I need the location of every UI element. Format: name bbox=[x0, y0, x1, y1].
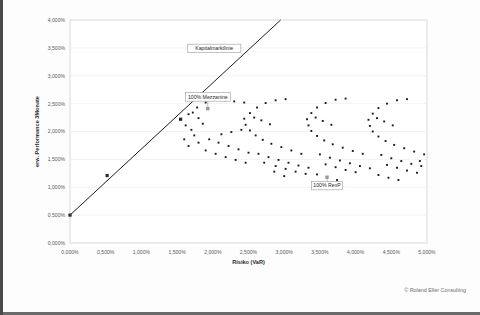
scatter-point bbox=[188, 113, 190, 115]
x-axis-tick-label: 2,000% bbox=[204, 249, 222, 255]
x-axis-tick-label: 5,000% bbox=[418, 249, 436, 255]
scatter-point bbox=[285, 168, 287, 170]
scatter-point bbox=[386, 103, 388, 105]
x-axis-tick-label: 3,500% bbox=[311, 249, 329, 255]
scatter-point bbox=[396, 167, 398, 169]
page-canvas: 0,000%0,500%1,000%1,500%2,000%2,500%3,00… bbox=[0, 0, 480, 315]
scatter-point bbox=[258, 153, 260, 155]
scatter-point bbox=[383, 121, 385, 123]
x-axis-tick-label: 2,500% bbox=[240, 249, 258, 255]
scatter-point bbox=[249, 129, 251, 131]
scatter-point bbox=[280, 146, 282, 148]
scatter-point bbox=[245, 162, 247, 164]
scatter-point bbox=[192, 112, 194, 114]
scatter-point bbox=[273, 171, 275, 173]
scatter-point bbox=[308, 167, 310, 169]
y-axis-tick-label: 1,000% bbox=[48, 184, 66, 190]
scatter-point bbox=[262, 139, 264, 141]
scatter-point bbox=[308, 124, 310, 126]
scatter-point bbox=[305, 173, 307, 175]
scatter-point bbox=[288, 162, 290, 164]
scatter-point bbox=[335, 166, 337, 168]
scatter-point bbox=[260, 119, 262, 121]
scatter-point bbox=[316, 135, 318, 137]
scatter-point bbox=[322, 120, 324, 122]
scatter-point bbox=[185, 124, 187, 126]
scatter-point bbox=[369, 167, 371, 169]
callout-anchor bbox=[325, 176, 328, 179]
scatter-point bbox=[372, 113, 374, 115]
scatter-point bbox=[230, 131, 232, 133]
scatter-point bbox=[377, 136, 379, 138]
scatter-point bbox=[179, 118, 181, 120]
scatter-point bbox=[233, 100, 235, 102]
scatter-point bbox=[355, 171, 357, 173]
scatter-point bbox=[265, 102, 267, 104]
scatter-point bbox=[202, 123, 204, 125]
scatter-point bbox=[243, 118, 245, 120]
scatter-point bbox=[243, 102, 245, 104]
scatter-point bbox=[285, 98, 287, 100]
scatter-point bbox=[205, 150, 207, 152]
scatter-point bbox=[316, 107, 318, 109]
scatter-point bbox=[377, 107, 379, 109]
scatter-point bbox=[300, 153, 302, 155]
scatter-point bbox=[268, 156, 270, 158]
callout-label: Kapitalmarktlinie bbox=[195, 45, 233, 51]
scatter-point bbox=[410, 163, 412, 165]
scatter-point bbox=[335, 99, 337, 101]
scatter-point bbox=[400, 160, 402, 162]
scatter-point bbox=[385, 140, 387, 142]
scatter-point bbox=[397, 179, 399, 181]
scatter-point bbox=[345, 98, 347, 100]
scatter-point bbox=[198, 117, 200, 119]
scatter-point bbox=[295, 171, 297, 173]
scatter-point bbox=[310, 130, 312, 132]
scatter-point bbox=[362, 153, 364, 155]
scatter-point bbox=[330, 124, 332, 126]
scatter-point bbox=[245, 124, 247, 126]
scatter-point bbox=[316, 173, 318, 175]
scatter-point bbox=[416, 172, 418, 174]
y-axis-tick-label: 0,000% bbox=[48, 240, 66, 246]
scatter-point bbox=[325, 163, 327, 165]
scatter-point bbox=[406, 98, 408, 100]
y-axis-tick-label: 2,000% bbox=[48, 128, 66, 134]
cml-marker bbox=[106, 174, 109, 177]
cml-marker bbox=[68, 214, 71, 217]
copyright-footer: © Roland Eller Consulting bbox=[404, 287, 466, 293]
scatter-point bbox=[390, 157, 392, 159]
callout-label: 100% Mezzanine bbox=[188, 94, 228, 100]
y-axis-tick-label: 3,000% bbox=[48, 73, 66, 79]
scatter-point bbox=[275, 99, 277, 101]
scatter-point bbox=[342, 147, 344, 149]
scatter-point bbox=[323, 139, 325, 141]
y-axis-tick-label: 2,500% bbox=[48, 101, 66, 107]
scatter-point bbox=[393, 144, 395, 146]
scatter-point bbox=[278, 159, 280, 161]
scatter-point bbox=[306, 118, 308, 120]
y-axis-tick-label: 4,000% bbox=[48, 17, 66, 23]
scatter-point bbox=[403, 147, 405, 149]
scatter-point bbox=[240, 129, 242, 131]
scatter-point bbox=[269, 123, 271, 125]
scatter-point bbox=[298, 165, 300, 167]
scatter-point bbox=[310, 112, 312, 114]
scatter-point bbox=[413, 151, 415, 153]
risk-return-scatter-chart: 0,000%0,500%1,000%1,500%2,000%2,500%3,00… bbox=[3, 0, 480, 315]
scatter-point bbox=[228, 145, 230, 147]
scatter-point bbox=[368, 119, 370, 121]
scatter-point bbox=[193, 134, 195, 136]
scatter-point bbox=[249, 112, 251, 114]
scatter-point bbox=[352, 150, 354, 152]
x-axis-tick-label: 4,500% bbox=[383, 249, 401, 255]
scatter-point bbox=[255, 134, 257, 136]
scatter-point bbox=[336, 179, 338, 181]
scatter-point bbox=[332, 143, 334, 145]
scatter-point bbox=[190, 129, 192, 131]
scatter-point bbox=[196, 107, 198, 109]
scatter-point bbox=[235, 159, 237, 161]
x-axis-tick-label: 0,000% bbox=[61, 249, 79, 255]
scatter-point bbox=[319, 153, 321, 155]
scatter-point bbox=[396, 99, 398, 101]
